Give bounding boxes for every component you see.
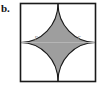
square-with-quarter-circles-diagram: r r bbox=[19, 2, 97, 83]
panel-label: b. bbox=[1, 2, 9, 14]
geometry-figure: b. r r bbox=[0, 0, 103, 85]
